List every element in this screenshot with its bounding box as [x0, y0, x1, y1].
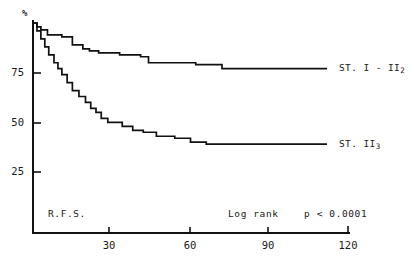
x-tick-label-120: 120 [328, 240, 368, 251]
series-label-stage-1-2-text: ST. I - II [339, 62, 400, 73]
x-tick-label-60: 60 [170, 240, 210, 251]
survival-chart-figure: % 75 50 25 30 60 90 120 ST. I - II2 ST. … [0, 0, 414, 263]
y-tick-marks [33, 73, 41, 172]
survival-curve-stage-1-2 [33, 23, 327, 69]
survival-curve-stage-2-3 [33, 23, 327, 144]
endpoint-annotation: R.F.S. [48, 209, 86, 219]
series-label-stage-2-3: ST. II3 [339, 139, 380, 151]
pvalue-annotation: p < 0.0001 [304, 209, 367, 219]
y-tick-label-25: 25 [0, 166, 24, 177]
series-label-stage-1-2-subscript: 2 [400, 66, 405, 75]
series-label-stage-2-3-subscript: 3 [376, 142, 381, 151]
series-label-stage-1-2: ST. I - II2 [339, 63, 405, 75]
series-label-stage-2-3-text: ST. II [339, 138, 376, 149]
x-tick-label-30: 30 [89, 240, 129, 251]
logrank-annotation: Log rank [228, 209, 279, 219]
x-tick-marks [109, 226, 348, 233]
chart-canvas [0, 0, 414, 263]
x-tick-label-90: 90 [248, 240, 288, 251]
y-tick-label-50: 50 [0, 117, 24, 128]
y-axis-unit-label: % [22, 9, 27, 18]
y-tick-label-75: 75 [0, 67, 24, 78]
